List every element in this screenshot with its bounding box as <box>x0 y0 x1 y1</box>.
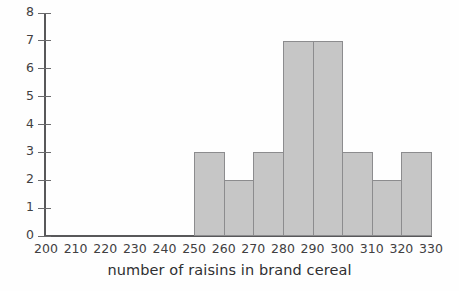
y-tick-label-text: 6 <box>16 62 34 75</box>
y-tick-mark <box>38 236 51 237</box>
y-tick-label: 3 <box>12 145 34 157</box>
histogram-bar <box>283 41 314 236</box>
histogram-bar <box>313 41 344 236</box>
y-tick-label: 0 <box>12 229 34 241</box>
y-tick-mark <box>38 68 51 69</box>
y-tick-label-text: 5 <box>16 90 34 103</box>
histogram-bar <box>401 152 432 236</box>
y-tick-label: 5 <box>12 90 34 102</box>
y-tick-mark <box>38 124 51 125</box>
x-axis-title: number of raisins in brand cereal <box>0 262 459 278</box>
y-tick-mark <box>38 180 51 181</box>
y-tick-label-text: 3 <box>16 145 34 158</box>
y-tick-label-text: 1 <box>16 201 34 214</box>
histogram-figure: 012345678 200210220230240250260270280290… <box>0 0 459 291</box>
y-tick-mark <box>38 208 51 209</box>
histogram-bar <box>342 152 373 236</box>
histogram-bar <box>224 180 255 236</box>
y-tick-label-text: 2 <box>16 173 34 186</box>
histogram-bar <box>253 152 284 236</box>
y-tick-label-text: 8 <box>16 6 34 19</box>
y-tick-label: 7 <box>12 34 34 46</box>
y-tick-label: 8 <box>12 6 34 18</box>
y-tick-label-text: 7 <box>16 34 34 47</box>
y-tick-label-text: 0 <box>16 229 34 242</box>
y-tick-label: 2 <box>12 173 34 185</box>
y-tick-mark <box>38 40 51 41</box>
y-tick-mark <box>38 13 51 14</box>
y-tick-mark <box>38 96 51 97</box>
plot-area: 012345678 200210220230240250260270280290… <box>0 0 459 291</box>
y-tick-label: 6 <box>12 62 34 74</box>
histogram-bar <box>194 152 225 236</box>
y-tick-mark <box>38 152 51 153</box>
y-tick-label: 4 <box>12 118 34 130</box>
histogram-bar <box>372 180 403 236</box>
x-tick-label: 330 <box>414 243 448 256</box>
y-axis-line <box>44 13 46 237</box>
y-tick-label-text: 4 <box>16 118 34 131</box>
y-tick-label: 1 <box>12 201 34 213</box>
